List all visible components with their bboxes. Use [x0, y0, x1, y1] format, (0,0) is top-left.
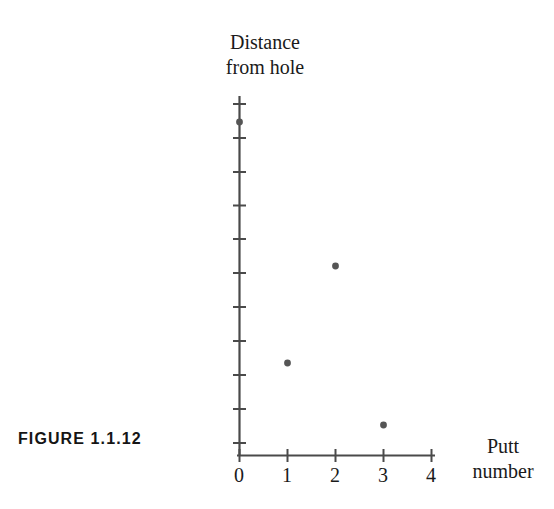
figure-container: Distance from hole Putt number 0 1 2 3 4…: [0, 0, 554, 509]
x-tick-label-1: 1: [272, 464, 302, 486]
figure-caption: FIGURE 1.1.12: [18, 430, 142, 448]
data-points: [236, 119, 387, 429]
y-axis-title-line-1: Distance: [185, 30, 345, 55]
data-point: [332, 263, 339, 270]
x-axis-title: Putt number: [455, 434, 551, 484]
y-axis-title: Distance from hole: [185, 30, 345, 80]
data-point: [284, 360, 291, 367]
y-axis-title-line-2: from hole: [185, 55, 345, 80]
x-tick-label-3: 3: [368, 464, 398, 486]
x-tick-label-4: 4: [416, 464, 446, 486]
x-axis-title-line-2: number: [455, 459, 551, 484]
x-tick-label-0: 0: [224, 464, 254, 486]
data-point: [380, 422, 387, 429]
x-tick-label-2: 2: [320, 464, 350, 486]
x-axis-title-line-1: Putt: [455, 434, 551, 459]
data-point: [236, 119, 243, 126]
